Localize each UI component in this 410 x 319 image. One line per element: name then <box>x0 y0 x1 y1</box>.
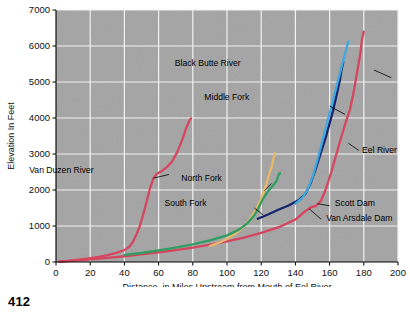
x-axis-title: Distance, in Miles Upstream from Mouth o… <box>122 282 331 287</box>
annotation-label: Middle Fork <box>204 92 250 102</box>
annotation-label: South Fork <box>164 198 207 208</box>
x-tick-label: 120 <box>253 267 269 278</box>
x-tick-label: 100 <box>219 267 235 278</box>
annotation-label: Scott Dam <box>335 198 375 208</box>
x-tick-label: 40 <box>119 267 130 278</box>
x-tick-label: 0 <box>53 267 58 278</box>
elevation-distance-chart: 0100020003000400050006000700002040608010… <box>0 0 410 287</box>
x-tick-label: 160 <box>322 267 338 278</box>
y-tick-label: 2000 <box>29 184 50 195</box>
annotation-label: North Fork <box>181 173 222 183</box>
x-tick-label: 140 <box>287 267 303 278</box>
y-axis-title: Elevation In Feet <box>6 102 16 170</box>
y-tick-label: 1000 <box>29 220 50 231</box>
y-tick-label: 4000 <box>29 112 50 123</box>
y-tick-label: 3000 <box>29 148 50 159</box>
x-tick-label: 60 <box>153 267 164 278</box>
annotation-label: Black Butte River <box>175 58 241 68</box>
y-tick-label: 0 <box>45 256 50 267</box>
y-tick-label: 5000 <box>29 76 50 87</box>
y-tick-label: 6000 <box>29 40 50 51</box>
x-tick-label: 20 <box>85 267 96 278</box>
x-tick-label: 180 <box>356 267 372 278</box>
x-tick-label: 80 <box>188 267 199 278</box>
x-tick-label: 200 <box>390 267 406 278</box>
annotation-label: Eel River <box>362 145 397 155</box>
river-profile-figure: 0100020003000400050006000700002040608010… <box>0 0 410 287</box>
y-tick-label: 7000 <box>29 4 50 15</box>
annotation-label: Van Duzen River <box>29 165 93 175</box>
page-number: 412 <box>8 294 30 309</box>
annotation-label: Van Arsdale Dam <box>326 213 392 223</box>
